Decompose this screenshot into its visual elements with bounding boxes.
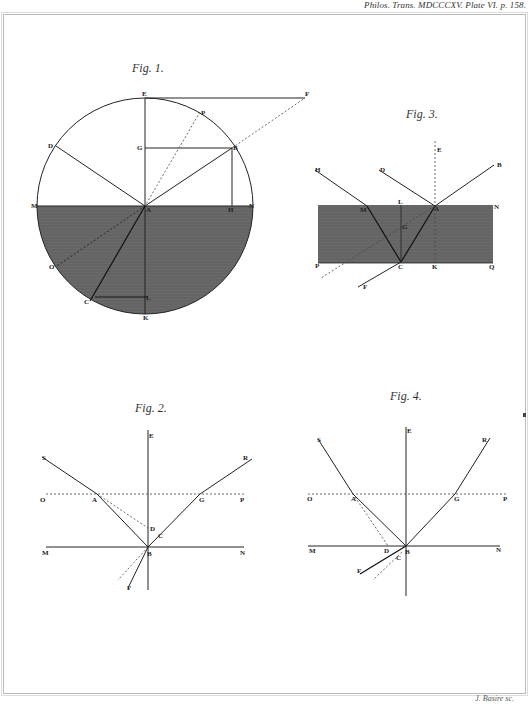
svg-text:F: F [363, 283, 367, 291]
svg-text:H: H [228, 206, 234, 214]
svg-text:C: C [396, 554, 401, 562]
svg-text:Q: Q [489, 263, 495, 271]
svg-text:M: M [42, 549, 49, 557]
figure-1: Fig. 1. E F P D G B [31, 61, 309, 322]
svg-text:E: E [407, 427, 412, 435]
svg-text:C: C [84, 298, 89, 306]
svg-text:G: G [402, 223, 408, 231]
svg-text:B: B [233, 144, 238, 152]
svg-text:N: N [240, 549, 245, 557]
svg-text:P: P [240, 496, 245, 504]
svg-text:S: S [317, 436, 321, 444]
svg-text:G: G [137, 144, 143, 152]
svg-text:L: L [146, 294, 151, 302]
svg-text:E: E [437, 146, 442, 154]
svg-text:N: N [249, 202, 254, 210]
svg-text:K: K [143, 314, 149, 322]
svg-text:F: F [127, 584, 131, 592]
svg-text:A: A [351, 495, 356, 503]
svg-text:R: R [243, 454, 249, 462]
svg-text:M: M [309, 547, 316, 555]
svg-text:P: P [315, 262, 320, 270]
svg-text:O: O [40, 496, 46, 504]
figure-3: Fig. 3. E H D B M L A N G P C K Q F [315, 107, 502, 291]
plate-drawing: Fig. 1. E F P D G B [0, 0, 530, 708]
svg-text:M: M [31, 202, 38, 210]
fig3-title: Fig. 3. [405, 107, 438, 121]
svg-text:B: B [147, 550, 152, 558]
svg-text:E: E [149, 432, 154, 440]
svg-text:F: F [357, 567, 361, 575]
svg-text:D: D [384, 547, 389, 555]
fig4-title: Fig. 4. [389, 389, 422, 403]
svg-text:N: N [496, 546, 501, 554]
svg-text:P: P [201, 109, 206, 117]
svg-text:E: E [142, 90, 147, 98]
svg-text:P: P [503, 495, 508, 503]
svg-text:A: A [146, 206, 151, 214]
svg-text:K: K [432, 263, 438, 271]
svg-text:G: G [199, 496, 205, 504]
figure-2: Fig. 2. E S R O A G P D C M B N F [40, 401, 252, 592]
svg-text:O: O [307, 495, 313, 503]
svg-text:D: D [150, 525, 155, 533]
figure-4: Fig. 4. E S R O A G P M D B N C F [307, 389, 508, 596]
svg-text:D: D [48, 142, 53, 150]
svg-text:M: M [360, 206, 367, 214]
svg-text:G: G [454, 495, 460, 503]
svg-text:S: S [42, 454, 46, 462]
margin-mark [523, 413, 526, 417]
svg-text:A: A [434, 205, 439, 213]
svg-text:O: O [49, 263, 55, 271]
svg-text:L: L [398, 198, 403, 206]
svg-text:F: F [305, 90, 309, 98]
svg-text:H: H [315, 166, 321, 174]
svg-text:D: D [380, 166, 385, 174]
svg-text:N: N [494, 203, 499, 211]
svg-text:A: A [92, 496, 97, 504]
svg-text:C: C [398, 263, 403, 271]
svg-text:B: B [497, 161, 502, 169]
fig1-title: Fig. 1. [131, 61, 164, 75]
fig2-title: Fig. 2. [134, 401, 167, 415]
svg-text:C: C [158, 532, 163, 540]
svg-text:B: B [405, 548, 410, 556]
